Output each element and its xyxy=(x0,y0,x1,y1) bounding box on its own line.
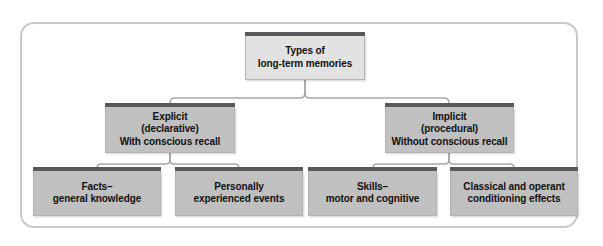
node-label-line-1: Types of xyxy=(281,45,329,57)
node-label-line-1: Skills– xyxy=(353,181,392,193)
node-cap-bar xyxy=(33,167,161,171)
node-cap-bar xyxy=(450,167,578,171)
node-label-line-1: Facts– xyxy=(77,181,116,193)
node-label-line-2: long-term memories xyxy=(254,58,356,70)
node-label-line-1: Implicit xyxy=(428,111,470,123)
node-skills-motor-and-cognitive: Skills– motor and cognitive xyxy=(308,171,437,216)
node-label-line-1: Personally xyxy=(210,181,268,193)
node-cap-bar xyxy=(385,103,514,107)
node-label-line-2: general knowledge xyxy=(49,193,145,205)
node-facts-general-knowledge: Facts– general knowledge xyxy=(33,171,161,216)
node-personally-experienced-events: Personally experienced events xyxy=(175,171,303,216)
node-label-line-1: Classical and operant xyxy=(459,181,568,193)
node-label-line-2: (procedural) xyxy=(417,123,482,135)
node-cap-bar xyxy=(105,103,235,107)
node-cap-bar xyxy=(245,32,365,36)
node-label-line-3: Without conscious recall xyxy=(388,136,512,148)
node-cap-bar xyxy=(175,167,303,171)
node-label-line-2: conditioning effects xyxy=(463,193,564,205)
node-label-line-2: experienced events xyxy=(189,193,288,205)
node-implicit-procedural: Implicit (procedural) Without conscious … xyxy=(385,107,514,153)
node-classical-and-operant-conditioning-effects: Classical and operant conditioning effec… xyxy=(450,171,578,216)
node-label-line-1: Explicit xyxy=(149,111,192,123)
node-label-line-3: With conscious recall xyxy=(116,136,225,148)
node-types-of-long-term-memories: Types of long-term memories xyxy=(245,36,365,80)
figure-root: Types of long-term memories Explicit (de… xyxy=(0,0,603,246)
node-cap-bar xyxy=(308,167,437,171)
node-explicit-declarative: Explicit (declarative) With conscious re… xyxy=(105,107,235,153)
node-label-line-2: motor and cognitive xyxy=(322,193,424,205)
node-label-line-2: (declarative) xyxy=(137,123,203,135)
